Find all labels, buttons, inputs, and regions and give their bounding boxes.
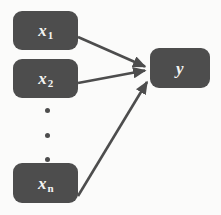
node-y-base: y <box>176 59 184 78</box>
node-x1-label: x1 <box>38 22 53 39</box>
node-x1-base: x <box>38 21 47 40</box>
node-xn-base: x <box>38 174 47 193</box>
vertical-ellipsis <box>41 108 53 162</box>
edge-xn-to-y <box>78 82 147 196</box>
node-x2: x2 <box>13 59 78 98</box>
edge-x1-to-y <box>78 37 145 67</box>
node-y-label: y <box>176 60 184 77</box>
diagram-canvas: x1 x2 xn y <box>0 0 221 215</box>
node-xn-label: xn <box>38 175 53 192</box>
edge-x2-to-y <box>78 71 145 84</box>
node-y: y <box>150 48 210 88</box>
ellipsis-dot <box>45 157 50 162</box>
node-x2-subscript: 2 <box>48 77 54 89</box>
node-xn: xn <box>13 163 78 203</box>
node-x1-subscript: 1 <box>48 29 54 41</box>
node-xn-subscript: n <box>47 182 53 194</box>
node-x1: x1 <box>13 11 78 50</box>
ellipsis-dot <box>45 133 50 138</box>
node-x2-label: x2 <box>38 70 53 87</box>
node-x2-base: x <box>38 69 47 88</box>
ellipsis-dot <box>45 108 50 113</box>
